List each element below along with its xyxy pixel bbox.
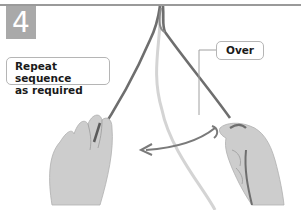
repeat-sequence-callout: Repeat sequence as required — [6, 57, 110, 85]
over-callout: Over — [216, 41, 264, 60]
repeat-callout-line1: Repeat sequence — [15, 60, 101, 84]
light-cord — [157, 6, 215, 210]
knot-drawing — [0, 0, 301, 210]
left-hand — [50, 115, 113, 205]
right-dark-cord — [163, 6, 230, 118]
direction-arrow-icon — [146, 128, 215, 150]
over-leader-line — [199, 50, 216, 115]
step-number-badge: 4 — [6, 6, 36, 39]
right-hand — [219, 123, 284, 205]
repeat-callout-line2: as required — [15, 84, 101, 96]
knot-step-illustration: 4 Repeat sequence as required Over — [0, 0, 301, 210]
